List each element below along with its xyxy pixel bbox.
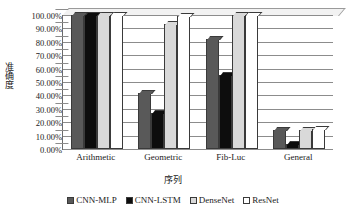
bar-top-face bbox=[207, 36, 223, 40]
y-axis-tick-label: 50.00% bbox=[14, 79, 62, 88]
y-axis-tick-label: 10.00% bbox=[14, 133, 62, 142]
y-axis-title: 准确度 bbox=[1, 62, 14, 89]
x-axis-tick-label: Geometric bbox=[130, 152, 198, 163]
bar-group bbox=[63, 15, 131, 149]
bar-series-container bbox=[63, 15, 333, 149]
x-axis-tick-label: General bbox=[265, 152, 333, 163]
legend-label: CNN-MLP bbox=[76, 195, 117, 206]
chart-legend: CNN-MLPCNN-LSTMDenseNetResNet bbox=[0, 195, 346, 206]
bar-top-face bbox=[313, 126, 329, 130]
bar-top-face bbox=[246, 12, 262, 16]
legend-swatch-icon bbox=[67, 197, 74, 204]
bar bbox=[71, 15, 84, 149]
legend-label: CNN-LSTM bbox=[135, 195, 181, 206]
bar bbox=[164, 24, 177, 149]
bar-group bbox=[198, 15, 266, 149]
bar bbox=[151, 113, 164, 149]
y-axis-tick-label: 20.00% bbox=[14, 119, 62, 128]
y-axis-tick-label: 0.00% bbox=[14, 146, 62, 155]
bar bbox=[110, 15, 123, 149]
bar-group bbox=[266, 15, 334, 149]
legend-label: ResNet bbox=[252, 195, 279, 206]
gridline bbox=[63, 149, 333, 150]
bar bbox=[219, 75, 232, 149]
legend-entry[interactable]: ResNet bbox=[243, 195, 279, 206]
bar-top-face bbox=[111, 12, 127, 16]
y-axis-tick-label: 90.00% bbox=[14, 25, 62, 34]
y-axis-tick-label: 100.00% bbox=[14, 12, 62, 21]
legend-label: DenseNet bbox=[199, 195, 235, 206]
bar bbox=[312, 129, 325, 149]
bar bbox=[138, 93, 151, 149]
bar bbox=[245, 15, 258, 149]
y-axis-tick-label: 60.00% bbox=[14, 66, 62, 75]
y-axis-tick-label: 80.00% bbox=[14, 39, 62, 48]
y-axis-tick-labels: 100.00%90.00%80.00%70.00%60.00%50.00%40.… bbox=[14, 14, 62, 149]
bar bbox=[84, 15, 97, 149]
legend-swatch-icon bbox=[243, 197, 250, 204]
bar bbox=[273, 130, 286, 149]
bar-group bbox=[131, 15, 199, 149]
bar bbox=[286, 144, 299, 149]
y-axis-tick-label: 40.00% bbox=[14, 92, 62, 101]
bar bbox=[299, 130, 312, 149]
gridline-depth-connector bbox=[55, 9, 69, 10]
x-axis-title: 序列 bbox=[0, 175, 346, 186]
bar bbox=[177, 16, 190, 149]
bar-top-face bbox=[274, 127, 290, 131]
bar bbox=[97, 15, 110, 149]
x-axis-tick-label: Fib-Luc bbox=[197, 152, 265, 163]
legend-swatch-icon bbox=[190, 197, 197, 204]
bar-top-face bbox=[139, 90, 155, 94]
plot-area bbox=[62, 15, 333, 150]
legend-entry[interactable]: DenseNet bbox=[190, 195, 235, 206]
x-axis-tick-label: Arithmetic bbox=[62, 152, 130, 163]
bar bbox=[206, 39, 219, 149]
legend-entry[interactable]: CNN-MLP bbox=[67, 195, 117, 206]
y-axis-tick-label: 30.00% bbox=[14, 106, 62, 115]
bar-top-face bbox=[178, 13, 194, 17]
x-axis-tick-labels: ArithmeticGeometricFib-LucGeneral bbox=[62, 152, 338, 166]
bar-chart-figure: 准确度 100.00%90.00%80.00%70.00%60.00%50.00… bbox=[0, 0, 346, 213]
y-axis-tick-label: 70.00% bbox=[14, 52, 62, 61]
bar bbox=[232, 15, 245, 149]
legend-swatch-icon bbox=[126, 197, 133, 204]
legend-entry[interactable]: CNN-LSTM bbox=[126, 195, 181, 206]
